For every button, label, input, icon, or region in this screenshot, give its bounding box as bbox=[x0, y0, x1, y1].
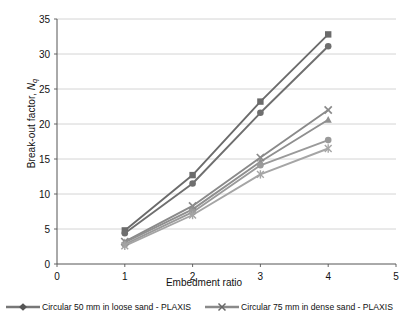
svg-text:10: 10 bbox=[39, 189, 51, 200]
svg-text:5: 5 bbox=[44, 224, 50, 235]
axis-lines bbox=[54, 19, 396, 267]
x-axis-title: Embedment ratio bbox=[0, 277, 408, 288]
legend-marker-diamond-icon bbox=[6, 301, 40, 313]
y-tick-labels: 05101520253035 bbox=[39, 14, 51, 270]
legend-marker-cross-icon bbox=[205, 301, 239, 313]
legend-label: Circular 75 mm in dense sand - PLAXIS bbox=[241, 303, 393, 312]
series-markers bbox=[121, 31, 332, 250]
legend-item: Circular 50 mm in loose sand - PLAXIS bbox=[6, 301, 191, 313]
chart-legend: Circular 50 mm in loose sand - PLAXIS Ci… bbox=[0, 296, 408, 318]
svg-text:20: 20 bbox=[39, 119, 51, 130]
legend-label: Circular 50 mm in loose sand - PLAXIS bbox=[42, 303, 191, 312]
legend-item: Circular 75 mm in dense sand - PLAXIS bbox=[205, 301, 393, 313]
y-axis-title: Break-out factor, Nq bbox=[26, 39, 37, 209]
svg-text:30: 30 bbox=[39, 49, 51, 60]
svg-text:15: 15 bbox=[39, 154, 51, 165]
svg-text:0: 0 bbox=[44, 259, 50, 270]
chart-svg: 05101520253035 012345 bbox=[0, 0, 408, 296]
plot-area: 05101520253035 012345 Break-out factor, … bbox=[0, 0, 408, 296]
svg-text:35: 35 bbox=[39, 14, 51, 25]
gridlines bbox=[57, 19, 396, 229]
svg-text:25: 25 bbox=[39, 84, 51, 95]
chart-figure: 05101520253035 012345 Break-out factor, … bbox=[0, 0, 408, 318]
series-lines bbox=[125, 34, 328, 245]
